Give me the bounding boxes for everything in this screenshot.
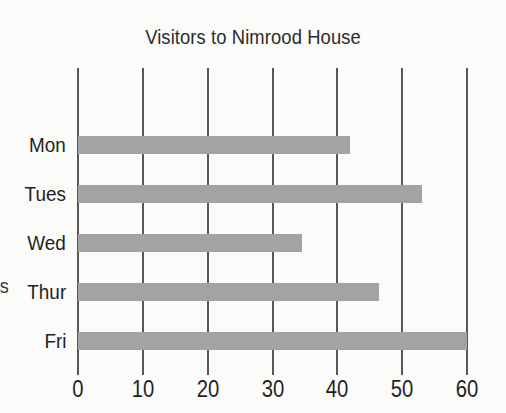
tick-label-30: 30 bbox=[261, 376, 284, 403]
tick-mark-40 bbox=[336, 362, 338, 375]
gridline-0 bbox=[77, 68, 79, 362]
category-label-fri: Fri bbox=[44, 330, 66, 352]
tick-mark-30 bbox=[272, 362, 274, 375]
bar-tues bbox=[78, 185, 422, 203]
gridline-20 bbox=[207, 68, 209, 362]
gridline-30 bbox=[272, 68, 274, 362]
tick-mark-0 bbox=[77, 362, 79, 375]
bar-row bbox=[78, 332, 467, 350]
tick-mark-10 bbox=[142, 362, 144, 375]
tick-label-60: 60 bbox=[456, 376, 479, 403]
category-axis-labels: MonTuesWedThurFri bbox=[0, 68, 72, 362]
tick-label-10: 10 bbox=[132, 376, 155, 403]
bar-thur bbox=[78, 283, 379, 301]
bar-mon bbox=[78, 136, 350, 154]
value-axis: 0102030405060 bbox=[78, 362, 467, 413]
tick-mark-20 bbox=[207, 362, 209, 375]
category-label-wed: Wed bbox=[27, 232, 66, 254]
gridline-50 bbox=[401, 68, 403, 362]
tick-mark-50 bbox=[401, 362, 403, 375]
plot-area bbox=[78, 68, 467, 362]
tick-label-20: 20 bbox=[196, 376, 219, 403]
bar-fri bbox=[78, 332, 467, 350]
bar-row bbox=[78, 234, 467, 252]
tick-label-0: 0 bbox=[72, 376, 83, 403]
bar-row bbox=[78, 136, 467, 154]
bar-wed bbox=[78, 234, 302, 252]
category-label-mon: Mon bbox=[29, 134, 66, 156]
gridline-10 bbox=[142, 68, 144, 362]
bar-row bbox=[78, 185, 467, 203]
tick-label-40: 40 bbox=[326, 376, 349, 403]
gridline-60 bbox=[466, 68, 468, 362]
tick-mark-60 bbox=[466, 362, 468, 375]
bar-chart: Visitors to Nimrood House s MonTuesWedTh… bbox=[0, 0, 506, 413]
chart-title: Visitors to Nimrood House bbox=[20, 26, 486, 49]
tick-label-50: 50 bbox=[391, 376, 414, 403]
gridline-40 bbox=[336, 68, 338, 362]
category-label-tues: Tues bbox=[25, 183, 66, 205]
bar-row bbox=[78, 283, 467, 301]
category-label-thur: Thur bbox=[27, 281, 66, 303]
